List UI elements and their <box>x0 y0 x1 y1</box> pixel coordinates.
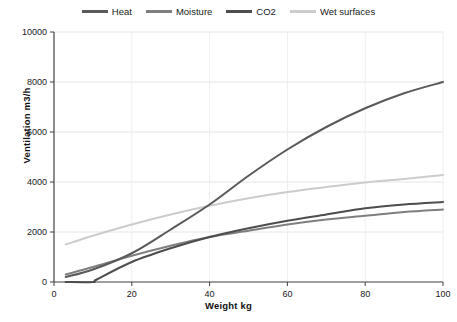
x-tick-label: 60 <box>282 289 292 299</box>
y-tick-label: 0 <box>42 277 47 287</box>
y-axis-title: Ventilation m3/h <box>21 56 32 196</box>
x-tick-label: 80 <box>360 289 370 299</box>
y-tick-label: 10000 <box>22 27 47 37</box>
plot-area: 0200040006000800010000020406080100 Venti… <box>0 0 457 322</box>
y-tick-label: 2000 <box>27 227 47 237</box>
plot-svg: 0200040006000800010000020406080100 <box>0 0 457 322</box>
x-tick-label: 40 <box>205 289 215 299</box>
x-tick-label: 20 <box>127 289 137 299</box>
x-tick-label: 100 <box>435 289 450 299</box>
chart-container: Heat Moisture CO2 Wet surfaces 020004000… <box>0 0 457 322</box>
x-axis-title: Weight kg <box>0 300 457 311</box>
x-tick-label: 0 <box>51 289 56 299</box>
